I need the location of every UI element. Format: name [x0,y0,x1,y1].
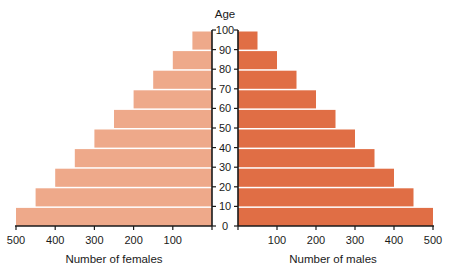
age-tick-label: 70 [219,83,231,95]
age-tick-label: 50 [219,122,231,134]
female-axis-title: Number of females [65,253,162,265]
female-bars [16,32,212,227]
female-bar-80-90 [173,51,212,69]
age-tick-label: 20 [219,181,231,193]
female-x-tick-label: 300 [85,234,103,246]
female-bar-70-80 [153,71,212,89]
female-axis-ticks: 500400300200100 [7,226,212,246]
male-bar-40-50 [238,130,355,148]
male-x-tick-label: 100 [268,234,286,246]
female-bar-60-70 [134,90,212,108]
age-tick-label: 80 [219,63,231,75]
age-tick-label: 60 [219,102,231,114]
age-tick-label: 30 [219,161,231,173]
female-bar-90-100 [192,32,212,50]
female-x-tick-label: 400 [46,234,64,246]
female-x-tick-label: 500 [7,234,25,246]
male-x-tick-label: 300 [346,234,364,246]
male-bar-70-80 [238,71,297,89]
male-bar-80-90 [238,51,277,69]
age-tick-label: 0 [222,220,228,232]
male-bars [238,32,433,227]
male-axis-ticks: 100200300400500 [238,226,442,246]
age-tick-label: 10 [219,200,231,212]
female-bar-0-10 [16,208,212,226]
male-bar-10-20 [238,188,414,206]
age-axis-title: Age [215,8,235,20]
female-bar-50-60 [114,110,212,128]
age-axis-ticks: 0102030405060708090100 [212,24,238,232]
male-x-tick-label: 200 [307,234,325,246]
female-x-tick-label: 200 [124,234,142,246]
age-tick-label: 90 [219,44,231,56]
male-bar-0-10 [238,208,433,226]
male-bar-90-100 [238,32,258,50]
female-bar-40-50 [94,130,212,148]
male-bar-20-30 [238,169,394,187]
female-bar-30-40 [75,149,212,167]
male-axis-title: Number of males [289,253,377,265]
male-bar-60-70 [238,90,316,108]
female-bar-10-20 [36,188,212,206]
female-bar-20-30 [55,169,212,187]
male-x-tick-label: 500 [424,234,442,246]
female-x-tick-label: 100 [164,234,182,246]
male-bar-50-60 [238,110,336,128]
age-tick-label: 100 [216,24,234,36]
male-x-tick-label: 400 [385,234,403,246]
age-tick-label: 40 [219,142,231,154]
male-bar-30-40 [238,149,375,167]
population-pyramid-chart: 0102030405060708090100 500400300200100 1… [0,0,449,269]
